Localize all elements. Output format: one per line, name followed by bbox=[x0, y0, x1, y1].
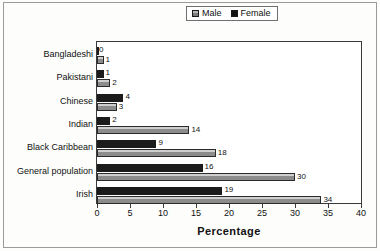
x-axis-tick-label: 10 bbox=[158, 209, 168, 218]
plot-area: 01124321491816301934 bbox=[96, 41, 362, 204]
bar-value-female: 2 bbox=[112, 116, 116, 124]
bar-value-male: 30 bbox=[297, 173, 306, 181]
x-axis-tick-label: 25 bbox=[257, 209, 267, 218]
y-axis-label-indian: Indian bbox=[68, 120, 93, 129]
bar-female bbox=[97, 94, 123, 102]
bar-group: 12 bbox=[97, 65, 361, 88]
y-axis-label-general-population: General population bbox=[17, 167, 93, 176]
bar-female bbox=[97, 140, 156, 148]
bar-value-male: 34 bbox=[323, 196, 332, 204]
x-axis: 0510152025303540 bbox=[96, 204, 362, 222]
bar-male bbox=[97, 103, 117, 111]
bar-value-male: 1 bbox=[106, 56, 110, 64]
bar-group: 43 bbox=[97, 89, 361, 112]
legend-swatch-male-icon bbox=[192, 10, 199, 17]
bar-male bbox=[97, 56, 104, 64]
bar-female bbox=[97, 117, 110, 125]
legend-label-female: Female bbox=[241, 9, 271, 18]
legend-label-male: Male bbox=[202, 9, 222, 18]
legend-swatch-female-icon bbox=[231, 10, 238, 17]
chart-legend: Male Female bbox=[186, 6, 278, 21]
chart-figure: Male Female Bangladeshi Pakistani Chines… bbox=[0, 0, 380, 251]
bar-female bbox=[97, 70, 104, 78]
bar-group: 1630 bbox=[97, 158, 361, 181]
bar-female bbox=[97, 164, 203, 172]
bar-male bbox=[97, 126, 189, 134]
bar-value-female: 19 bbox=[224, 186, 233, 194]
bar-male bbox=[97, 79, 110, 87]
y-axis-label-chinese: Chinese bbox=[60, 97, 93, 106]
bar-group: 1934 bbox=[97, 182, 361, 205]
bar-value-female: 0 bbox=[99, 46, 103, 54]
bar-male bbox=[97, 173, 295, 181]
y-axis-labels: Bangladeshi Pakistani Chinese Indian Bla… bbox=[6, 41, 93, 204]
bar-value-male: 3 bbox=[119, 103, 123, 111]
bar-female bbox=[97, 187, 222, 195]
bar-value-male: 14 bbox=[191, 126, 200, 134]
x-axis-tick-label: 40 bbox=[356, 209, 366, 218]
x-axis-tick-label: 35 bbox=[323, 209, 333, 218]
legend-entry-female: Female bbox=[231, 9, 271, 18]
bar-value-female: 1 bbox=[106, 69, 110, 77]
y-axis-label-bangladeshi: Bangladeshi bbox=[43, 50, 93, 59]
y-axis-label-irish: Irish bbox=[76, 190, 93, 199]
x-axis-tick-label: 30 bbox=[290, 209, 300, 218]
x-axis-tick-label: 15 bbox=[191, 209, 201, 218]
x-axis-tick-label: 0 bbox=[94, 209, 99, 218]
bar-group: 918 bbox=[97, 135, 361, 158]
bar-value-male: 18 bbox=[218, 149, 227, 157]
bar-group: 214 bbox=[97, 112, 361, 135]
x-axis-tick-label: 5 bbox=[127, 209, 132, 218]
x-axis-tick-label: 20 bbox=[224, 209, 234, 218]
bar-value-female: 9 bbox=[158, 139, 162, 147]
bar-value-male: 2 bbox=[112, 79, 116, 87]
bars-container: 01124321491816301934 bbox=[97, 42, 361, 203]
bar-value-female: 16 bbox=[205, 163, 214, 171]
bar-male bbox=[97, 149, 216, 157]
x-axis-title: Percentage bbox=[96, 225, 362, 237]
bar-male bbox=[97, 196, 321, 204]
legend-entry-male: Male bbox=[192, 9, 222, 18]
bar-value-female: 4 bbox=[125, 93, 129, 101]
y-axis-label-black-caribbean: Black Caribbean bbox=[27, 143, 93, 152]
y-axis-label-pakistani: Pakistani bbox=[56, 73, 93, 82]
bar-group: 01 bbox=[97, 42, 361, 65]
